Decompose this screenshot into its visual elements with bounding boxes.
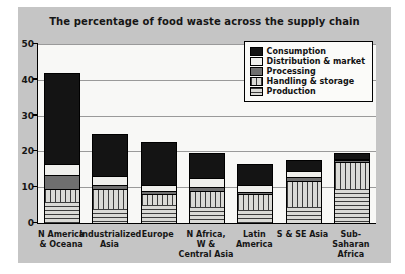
y-tick-mark [33,222,38,224]
bar-segment [238,210,272,223]
bar-segment [335,189,369,223]
legend-label: Processing [267,67,316,76]
legend-item: Production [250,87,365,96]
hlines-swatch [250,87,263,96]
y-tick-label: 10 [4,182,34,192]
vlines-swatch [250,77,263,86]
bar-segment [190,153,224,178]
light-swatch [250,57,263,66]
y-tick-mark [33,150,38,152]
y-tick-label: 30 [4,111,34,121]
bar-segment [45,189,79,202]
x-axis-labels: N America& OceanaIndustrializedAsiaEurop… [37,228,375,266]
bar-s-se-asia [286,160,322,223]
legend-label: Handling & storage [267,77,355,86]
bar-segment [93,176,127,185]
bar-segment [190,191,224,207]
y-tick-mark [33,78,38,80]
bar-segment [287,207,321,223]
bar-europe [141,142,177,223]
legend-item: Consumption [250,47,365,56]
bar-n-africa- [189,153,225,223]
bar-segment [45,164,79,175]
bar-segment [287,160,321,171]
legend-item: Handling & storage [250,77,365,86]
black-swatch [250,47,263,56]
bar-segment [142,205,176,223]
legend-label: Distribution & market [267,57,365,66]
y-tick-mark [33,186,38,188]
bar-segment [45,202,79,223]
y-tick-label: 40 [4,75,34,85]
legend-label: Production [267,87,316,96]
bar-segment [45,175,79,189]
bar-sub- [334,153,370,223]
y-tick-label: 50 [4,39,34,49]
y-tick-mark [33,114,38,116]
legend-item: Distribution & market [250,57,365,66]
bar-industrialized [92,134,128,224]
bar-segment [93,209,127,223]
chart-panel: The percentage of food waste across the … [18,7,391,263]
chart-title: The percentage of food waste across the … [18,16,391,27]
bar-segment [287,181,321,207]
bar-segment [238,194,272,210]
bar-segment [93,134,127,177]
bar-n-america [44,73,80,223]
bar-segment [142,142,176,185]
dark-swatch [250,67,263,76]
gridline [38,116,376,117]
y-tick-label: 20 [4,146,34,156]
bar-latin [237,164,273,223]
y-tick-mark [33,43,38,45]
legend-label: Consumption [267,47,326,56]
plot-area: 01020304050ConsumptionDistribution & mar… [37,44,376,224]
bar-segment [45,73,79,164]
bar-segment [142,194,176,205]
y-tick-label: 0 [4,218,34,228]
bar-segment [335,162,369,189]
bar-segment [238,164,272,185]
bar-segment [93,189,127,209]
bar-segment [190,178,224,187]
bar-segment [190,207,224,223]
x-axis-label: Sub-SaharanAfrica [321,230,381,260]
legend: ConsumptionDistribution & marketProcessi… [244,41,373,102]
legend-item: Processing [250,67,365,76]
